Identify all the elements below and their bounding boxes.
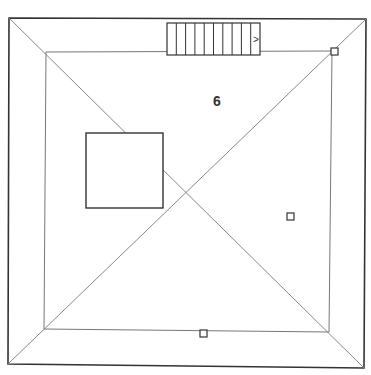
stair-direction-arrow-icon: >: [253, 34, 259, 45]
block-rectangle: [86, 133, 163, 208]
room-number-label: 6: [213, 93, 221, 109]
marker-square: [200, 330, 207, 337]
diagonal-line: [8, 19, 366, 364]
marker-square: [287, 213, 294, 220]
floor-plan-drawing: >: [0, 0, 371, 375]
diagonal-line: [9, 18, 364, 368]
marker-square: [331, 48, 338, 55]
